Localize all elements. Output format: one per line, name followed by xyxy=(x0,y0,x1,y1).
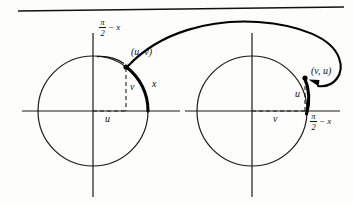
mapping-arrowhead xyxy=(309,80,320,87)
right-angle-remainder: − x xyxy=(319,117,331,126)
left-arc-length-label: x xyxy=(152,79,156,89)
left-angle-remainder: − x xyxy=(108,23,120,32)
right-complementary-angle-label: π 2 − x xyxy=(310,112,331,131)
left-u-label: u xyxy=(105,114,110,124)
top-horizontal-rule xyxy=(18,7,344,11)
left-unit-circle-panel xyxy=(22,33,180,197)
left-point-label: (u, v) xyxy=(131,47,152,57)
trigonometry-figure: π 2 − x (u, v) x v u (v, u) u v π 2 − x xyxy=(0,0,353,204)
left-angle-denominator: 2 xyxy=(99,28,105,37)
left-angle-numerator: π xyxy=(99,18,105,27)
right-angle-numerator: π xyxy=(310,112,316,121)
right-point-label: (v, u) xyxy=(311,66,331,76)
right-angle-denominator: 2 xyxy=(310,122,316,131)
right-point-marker xyxy=(302,75,307,80)
left-complementary-angle-label: π 2 − x xyxy=(99,18,120,37)
right-u-label: u xyxy=(295,89,300,99)
mapping-arrow-curve xyxy=(128,22,341,87)
figure-canvas xyxy=(0,0,353,204)
right-v-label: v xyxy=(273,114,277,124)
left-v-label: v xyxy=(130,82,134,92)
mapping-arrow-path xyxy=(128,22,341,87)
